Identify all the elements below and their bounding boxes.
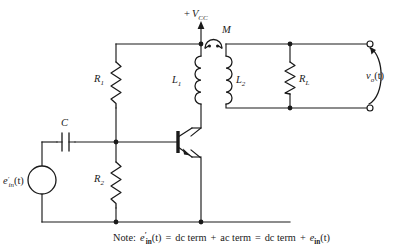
note-plus1: + xyxy=(211,232,217,243)
r1-subscript: 1 xyxy=(100,79,104,87)
note-text: Note:e′in(t)=dc term+ac term=dc term+ein… xyxy=(113,232,330,246)
inductor-l1-winding xyxy=(195,56,201,104)
junction-dots xyxy=(114,42,293,225)
output-voltage-label: vo(t) xyxy=(366,70,385,84)
output-argument: (t) xyxy=(374,70,384,82)
mutual-inductance-label: M xyxy=(221,24,232,35)
node-base-bias xyxy=(114,140,119,145)
rl-label: RL xyxy=(298,73,309,87)
note-rhs-arg: (t) xyxy=(320,232,330,244)
note-term2: ac term xyxy=(220,232,251,243)
r2-subscript: 2 xyxy=(100,179,104,187)
note-eq2: = xyxy=(255,232,261,243)
transformer: L1 L2 xyxy=(171,56,246,104)
node-ground-emitter xyxy=(199,220,204,225)
transistor-npn xyxy=(178,128,201,157)
l1-label: L1 xyxy=(171,74,181,88)
resistor-rl: RL xyxy=(285,62,309,94)
note-prefix: Note: xyxy=(113,232,136,243)
r2-label: R2 xyxy=(93,173,104,187)
output-terminal-top[interactable] xyxy=(367,41,373,47)
node-rl-bottom xyxy=(288,106,293,111)
input-source: e′in(t) xyxy=(3,166,56,194)
inductor-l2-winding xyxy=(226,56,232,104)
l2-label: L2 xyxy=(235,74,246,88)
node-vcc xyxy=(199,42,204,47)
capacitor-c: C xyxy=(57,117,75,151)
note-eq1: = xyxy=(166,232,172,243)
circuit-figure: +VCC M L1 L2 xyxy=(0,0,404,250)
source-argument: (t) xyxy=(14,175,24,187)
coupling-arrow-ticks xyxy=(206,46,222,49)
note-lhs-arg: (t) xyxy=(152,232,162,244)
output-port: vo(t) xyxy=(366,41,385,111)
wire-emitter-to-ground xyxy=(191,150,201,222)
resistor-rl-zigzag xyxy=(285,62,295,94)
note-term1: dc term xyxy=(175,232,206,243)
note-term3: dc term xyxy=(265,232,296,243)
resistor-r1: R1 xyxy=(93,62,121,108)
l2-subscript: 2 xyxy=(242,80,246,88)
r1-label: R1 xyxy=(93,73,104,87)
node-ground-r2 xyxy=(114,220,119,225)
transistor-collector-lead xyxy=(178,128,192,137)
vcc-arrow-head xyxy=(198,21,205,29)
l1-subscript: 1 xyxy=(178,80,182,88)
circuit-diagram-canvas: +VCC M L1 L2 xyxy=(0,0,404,250)
inductor-l2 xyxy=(226,56,232,104)
vcc-subscript: CC xyxy=(198,14,208,22)
node-rl-top xyxy=(288,42,293,47)
vcc-supply: +VCC xyxy=(184,8,208,44)
inductor-l1 xyxy=(195,56,201,104)
wire-l1-to-collector xyxy=(191,104,201,136)
wiring xyxy=(42,44,367,222)
vcc-label: +VCC xyxy=(184,8,208,22)
note-plus2: + xyxy=(300,232,306,243)
source-circle xyxy=(28,166,56,194)
rl-subscript: L xyxy=(304,79,309,87)
source-label: e′in(t) xyxy=(3,175,24,189)
resistor-r1-zigzag xyxy=(111,62,121,108)
capacitor-label: C xyxy=(61,117,69,128)
resistor-r2: R2 xyxy=(93,162,121,208)
output-terminal-bottom[interactable] xyxy=(367,105,373,111)
resistor-r2-zigzag xyxy=(111,162,121,208)
wire-l2-to-load xyxy=(226,104,290,108)
vcc-plus-sign: + xyxy=(184,8,190,19)
